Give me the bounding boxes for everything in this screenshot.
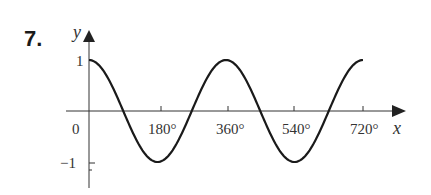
y-axis-arrow-icon (83, 30, 95, 42)
origin-label: 0 (72, 121, 80, 137)
x-tick-540: 540° (282, 121, 311, 137)
x-tick-180: 180° (148, 121, 177, 137)
x-axis-arrow-icon (392, 105, 406, 117)
cosine-graph: 180° 360° 540° 720° 0 1 −1 y x (0, 0, 431, 195)
x-axis-label: x (392, 118, 401, 138)
y-tick-1: 1 (76, 53, 84, 69)
y-axis-label: y (71, 22, 81, 42)
x-tick-360: 360° (216, 121, 245, 137)
x-tick-720: 720° (350, 121, 379, 137)
y-ticks (89, 163, 95, 170)
y-tick-neg1: −1 (60, 155, 76, 171)
